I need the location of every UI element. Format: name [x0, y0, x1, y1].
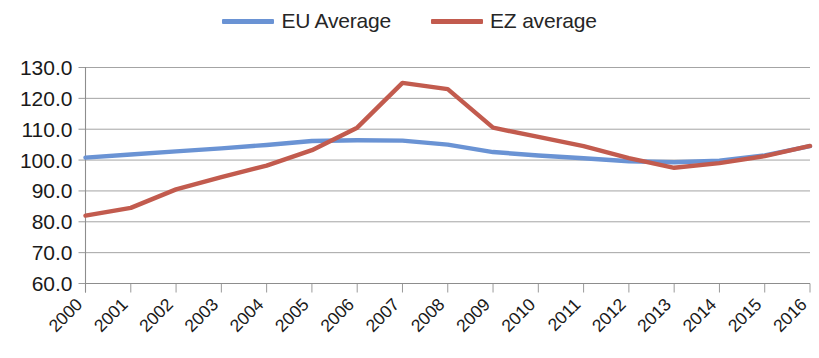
x-axis-tickmarks-group [86, 284, 811, 293]
x-axis-label: 2008 [407, 294, 449, 336]
axis-lines-group [86, 67, 811, 293]
plot-area-wrapper: 130.0120.0110.0100.090.080.070.060.0 200… [0, 0, 819, 358]
x-axis-label: 2007 [362, 294, 404, 336]
x-axis-label: 2002 [135, 294, 177, 336]
x-axis-label: 2005 [271, 294, 313, 336]
x-axis-label: 2004 [226, 294, 268, 336]
series-group [86, 83, 811, 216]
chart-container: EU Average EZ average 130.0120.0110.0100… [0, 0, 819, 358]
x-axis-label: 2010 [497, 294, 539, 336]
y-axis-label: 130.0 [20, 56, 73, 79]
x-axis-label: 2012 [588, 294, 630, 336]
y-axis-label: 100.0 [20, 149, 73, 172]
chart-plot-svg: 130.0120.0110.0100.090.080.070.060.0 200… [0, 0, 819, 358]
y-axis-label: 120.0 [20, 87, 73, 110]
x-axis-label: 2015 [724, 294, 766, 336]
x-axis-label: 2006 [316, 294, 358, 336]
y-axis-label: 110.0 [22, 118, 73, 141]
x-axis-label: 2000 [45, 294, 87, 336]
x-axis-label: 2013 [633, 294, 675, 336]
y-axis-label: 70.0 [32, 241, 73, 264]
x-axis-label: 2009 [452, 294, 494, 336]
x-axis-label: 2011 [544, 294, 585, 335]
series-line-eu-average[interactable] [86, 140, 811, 162]
gridlines-group [79, 68, 811, 284]
y-axis-label: 90.0 [32, 179, 73, 202]
y-axis-labels-group: 130.0120.0110.0100.090.080.070.060.0 [20, 56, 73, 295]
y-axis-label: 80.0 [32, 210, 73, 233]
x-axis-labels-group: 2000200120022003200420052006200720082009… [45, 294, 811, 336]
x-axis-label: 2014 [679, 294, 721, 336]
x-axis-label: 2016 [769, 294, 811, 336]
x-axis-label: 2003 [180, 294, 222, 336]
x-axis-label: 2001 [90, 294, 132, 336]
y-axis-label: 60.0 [32, 272, 73, 295]
